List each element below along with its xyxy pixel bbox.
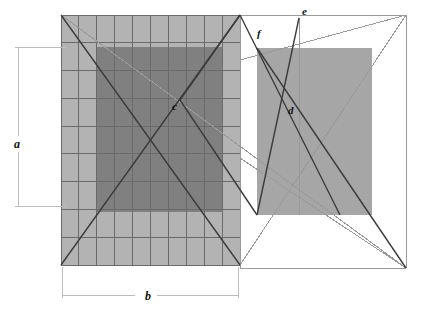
inner-dark-rectangle <box>97 47 222 212</box>
point-label-f: f <box>257 27 262 39</box>
shape-layer <box>61 15 372 265</box>
dimension-label-b: b <box>145 289 151 303</box>
point-label-c: c <box>172 100 177 112</box>
diagram-canvas: cdef ab <box>0 0 422 318</box>
point-label-e: e <box>302 5 307 17</box>
point-label-d: d <box>288 104 294 116</box>
geometric-diagram: cdef ab <box>0 0 422 318</box>
dimension-label-a: a <box>14 137 20 151</box>
